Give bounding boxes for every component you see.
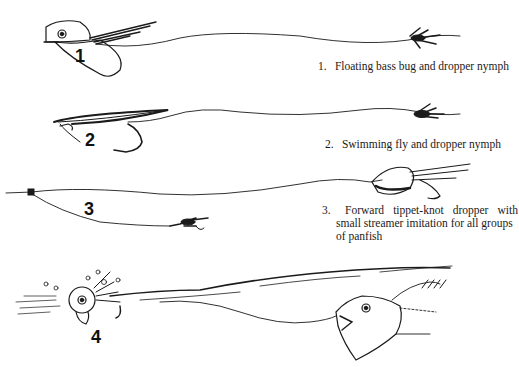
rig-4-popper-and-panfish [16, 266, 452, 360]
caption-3-number: 3. [322, 204, 336, 217]
caption-3: 3. Forward tippet-knot dropper with smal… [322, 204, 518, 243]
rig-4-number: 4 [91, 327, 101, 348]
caption-3-line-3: of panfish [322, 230, 518, 243]
rig-2-number: 2 [85, 130, 95, 151]
caption-2-text: Swimming fly and dropper nymph [342, 138, 501, 150]
caption-1: 1. Floating bass bug and dropper nymph [318, 60, 509, 73]
caption-3-line-1: 3. Forward tippet-knot dropper with [322, 204, 518, 217]
caption-2: 2. Swimming fly and dropper nymph [325, 138, 501, 151]
caption-1-text: Floating bass bug and dropper nymph [335, 60, 509, 72]
rig-1-number: 1 [75, 46, 85, 67]
caption-2-number: 2. [325, 138, 339, 151]
caption-1-number: 1. [318, 60, 332, 73]
caption-3-line-2: small streamer imitation for all groups [322, 217, 518, 230]
rig-3-number: 3 [84, 199, 94, 220]
